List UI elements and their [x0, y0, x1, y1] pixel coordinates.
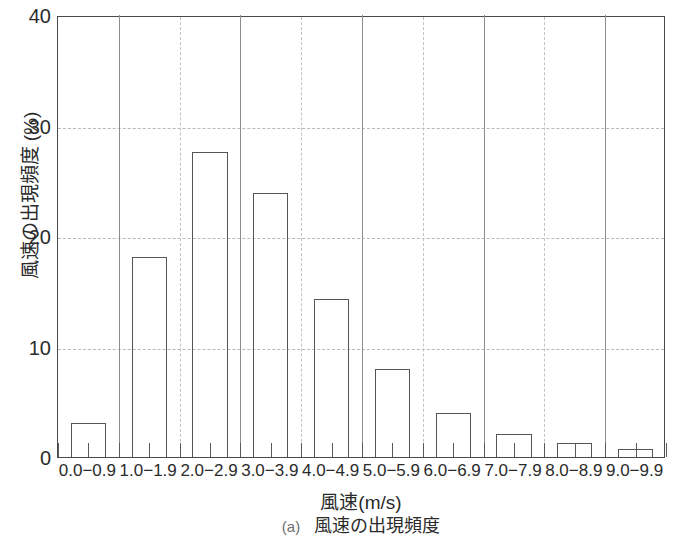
y-axis-tick-labels: 010203040 [0, 16, 51, 458]
x-tick-label-7: 7.0−7.9 [484, 461, 541, 481]
bar-2.0−2.9 [192, 152, 227, 457]
y-tick-label-0: 0 [5, 447, 51, 470]
bar-9.0−9.9 [618, 449, 653, 457]
bar-1.0−1.9 [132, 257, 167, 457]
x-tick-label-2: 2.0−2.9 [180, 461, 237, 481]
caption-tag: (a) [282, 518, 300, 535]
y-tick-label-10: 10 [5, 336, 51, 359]
bar-3.0−3.9 [253, 193, 288, 457]
x-tick-label-9: 9.0−9.9 [606, 461, 663, 481]
x-tick-label-1: 1.0−1.9 [120, 461, 177, 481]
x-tick-label-3: 3.0−3.9 [241, 461, 298, 481]
x-axis-label: 風速(m/s) [57, 487, 665, 514]
plot-area [57, 16, 665, 458]
bar-7.0−7.9 [496, 434, 531, 457]
x-axis-tick-labels: 0.0−0.91.0−1.92.0−2.93.0−3.94.0−4.95.0−5… [57, 461, 665, 485]
figure-caption: (a)風速の出現頻度 [57, 511, 665, 537]
caption-text: 風速の出現頻度 [314, 516, 440, 536]
x-tick-mark-20 [666, 443, 667, 457]
x-tick-label-6: 6.0−6.9 [424, 461, 481, 481]
bar-4.0−4.9 [314, 299, 349, 457]
bar-6.0−6.9 [436, 413, 471, 457]
bar-0.0−0.9 [71, 423, 106, 457]
y-tick-label-30: 30 [5, 115, 51, 138]
x-tick-label-5: 5.0−5.9 [363, 461, 420, 481]
bar-8.0−8.9 [557, 443, 592, 457]
x-tick-label-4: 4.0−4.9 [302, 461, 359, 481]
bar-series [58, 17, 664, 457]
bar-5.0−5.9 [375, 369, 410, 457]
y-tick-label-40: 40 [5, 5, 51, 28]
x-tick-label-0: 0.0−0.9 [59, 461, 116, 481]
x-tick-label-8: 8.0−8.9 [545, 461, 602, 481]
y-tick-label-20: 20 [5, 226, 51, 249]
